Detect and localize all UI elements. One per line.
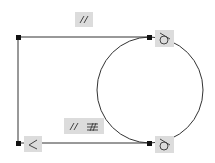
point-bottom-right[interactable] <box>147 141 152 146</box>
tangent-constraint-icon-top[interactable] <box>155 30 174 47</box>
point-bottom-left[interactable] <box>16 141 21 146</box>
perpendicular-constraint-icon[interactable] <box>24 136 42 152</box>
point-top-left[interactable] <box>16 35 21 40</box>
parallel-equal-constraint-icon[interactable] <box>64 118 104 134</box>
point-top-right[interactable] <box>147 35 152 40</box>
parallel-constraint-icon[interactable] <box>75 12 93 27</box>
tangent-constraint-icon-bottom[interactable] <box>155 136 174 153</box>
circle[interactable] <box>97 37 203 143</box>
